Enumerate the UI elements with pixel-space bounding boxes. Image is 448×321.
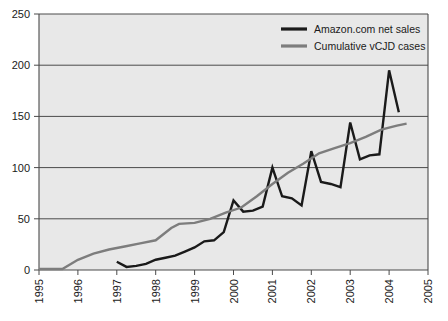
y-tick-label: 0 xyxy=(24,264,30,276)
x-tick-label: 1995 xyxy=(33,279,45,303)
x-tick-label: 2005 xyxy=(422,279,434,303)
y-tick-label: 200 xyxy=(12,59,30,71)
y-tick-label: 50 xyxy=(18,213,30,225)
chart-container: 050100150200250 199519961997199819992000… xyxy=(0,0,448,321)
x-tick-label: 2002 xyxy=(305,279,317,303)
x-tick-label: 1996 xyxy=(72,279,84,303)
x-tick-label: 1998 xyxy=(150,279,162,303)
y-tick-label: 100 xyxy=(12,162,30,174)
x-tick-label: 1997 xyxy=(111,279,123,303)
x-tick-label: 2003 xyxy=(344,279,356,303)
x-tick-label: 1999 xyxy=(189,279,201,303)
plot-area-background xyxy=(39,14,428,270)
x-tick-label: 2001 xyxy=(266,279,278,303)
legend-label-1: Cumulative vCJD cases xyxy=(314,40,425,52)
y-tick-label: 250 xyxy=(12,8,30,20)
legend-label-0: Amazon.com net sales xyxy=(314,23,420,35)
x-tick-label: 2004 xyxy=(383,279,395,303)
line-chart: 050100150200250 199519961997199819992000… xyxy=(0,0,448,321)
x-tick-label: 2000 xyxy=(228,279,240,303)
y-tick-label: 150 xyxy=(12,110,30,122)
